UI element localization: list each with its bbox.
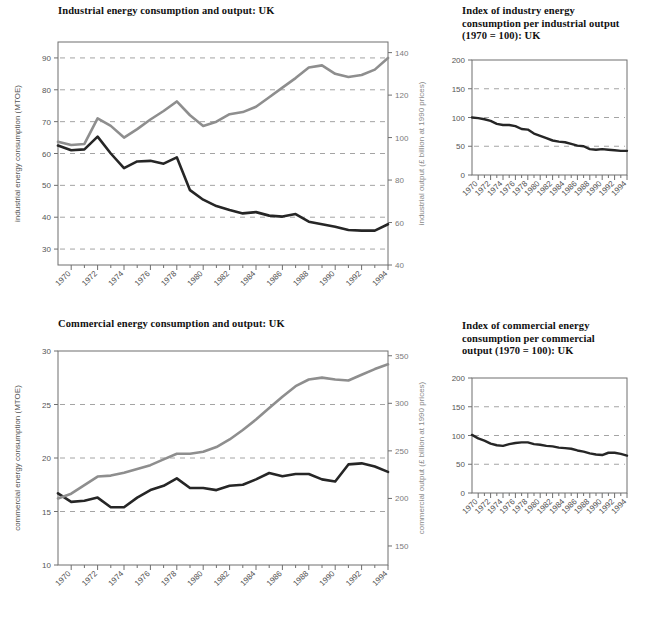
xtick-label: 1984 [238, 569, 257, 588]
xtick-label: 1974 [106, 569, 125, 588]
xtick-label: 1972 [80, 569, 99, 588]
ytick-label: 30 [42, 347, 51, 356]
xtick-label: 1978 [159, 569, 178, 588]
chart-panel-commercial-energy: Commercial energy consumption and output… [0, 310, 440, 620]
ytick-label: 30 [42, 245, 51, 254]
xtick-label: 1972 [80, 269, 99, 288]
xtick-label: 1980 [186, 269, 205, 288]
xtick-label: 1986 [265, 569, 284, 588]
xtick-label: 1980 [186, 569, 205, 588]
ytick-label: 40 [42, 213, 51, 222]
chart-commercial-energy: 1015202530150200250300350197019721974197… [0, 332, 440, 620]
ytick-label: 10 [42, 561, 51, 570]
ytick-label: 25 [42, 401, 51, 410]
y2tick-label: 150 [395, 542, 409, 551]
y2-axis-title: commercial output (£ billion at 1990 pri… [417, 381, 426, 534]
ytick-label: 50 [456, 460, 465, 469]
xtick-label: 1984 [238, 269, 257, 288]
xtick-label: 1988 [291, 269, 310, 288]
chart-index-commercial: 0501001502001970197219741976197819801982… [440, 366, 656, 526]
y2tick-label: 300 [395, 399, 409, 408]
ytick-label: 150 [452, 403, 466, 412]
ytick-label: 90 [42, 54, 51, 63]
ytick-label: 200 [452, 56, 466, 65]
xtick-label: 1992 [344, 569, 363, 588]
xtick-label: 1994 [370, 269, 389, 288]
xtick-label: 1976 [133, 269, 152, 288]
y2tick-label: 60 [395, 219, 404, 228]
y2tick-label: 80 [395, 176, 404, 185]
ytick-label: 100 [452, 432, 466, 441]
series-line-consumption [472, 435, 627, 456]
ytick-label: 0 [461, 171, 466, 180]
y2tick-label: 350 [395, 352, 409, 361]
xtick-label: 1994 [370, 569, 389, 588]
xtick-label: 1988 [291, 569, 310, 588]
ytick-label: 100 [452, 114, 466, 123]
chart-panel-index-commercial: Index of commercial energy consumption p… [440, 310, 656, 550]
chart-industrial-energy: 3040506070809040608010012014019701972197… [0, 20, 440, 310]
chart-panel-index-industry: Index of industry energy consumption per… [440, 0, 656, 230]
xtick-label: 1992 [344, 269, 363, 288]
xtick-label: 1970 [54, 569, 73, 588]
y2tick-label: 250 [395, 447, 409, 456]
y-axis-title: industrial energy consumption (MTOE) [13, 85, 22, 222]
ytick-label: 0 [461, 489, 466, 498]
y2tick-label: 100 [395, 134, 409, 143]
xtick-label: 1978 [159, 269, 178, 288]
series-line-consumption [58, 463, 388, 507]
y-axis-title: commercial energy consumption (MTOE) [13, 385, 22, 531]
xtick-label: 1982 [212, 269, 231, 288]
ytick-label: 70 [42, 118, 51, 127]
ytick-label: 20 [42, 454, 51, 463]
xtick-label: 1990 [318, 569, 337, 588]
ytick-label: 200 [452, 374, 466, 383]
chart-panel-industrial-energy: Industrial energy consumption and output… [0, 0, 440, 310]
xtick-label: 1976 [133, 569, 152, 588]
ytick-label: 50 [456, 142, 465, 151]
y2tick-label: 200 [395, 494, 409, 503]
xtick-label: 1974 [106, 269, 125, 288]
chart-index-industry: 0501001502001970197219741976197819801982… [440, 48, 656, 208]
ytick-label: 60 [42, 150, 51, 159]
y2-axis-title: industrial output (£ billion at 1990 pri… [417, 81, 426, 225]
y2tick-label: 140 [395, 49, 409, 58]
xtick-label: 1994 [609, 497, 628, 516]
page-title-industrial-energy: Industrial energy consumption and output… [58, 5, 274, 18]
series-line-output [58, 58, 388, 145]
ytick-label: 150 [452, 85, 466, 94]
ytick-label: 50 [42, 181, 51, 190]
xtick-label: 1970 [54, 269, 73, 288]
page-title-commercial-energy: Commercial energy consumption and output… [58, 318, 285, 331]
xtick-label: 1986 [265, 269, 284, 288]
xtick-label: 1990 [318, 269, 337, 288]
xtick-label: 1994 [609, 179, 628, 198]
ytick-label: 80 [42, 86, 51, 95]
series-line-consumption [58, 137, 388, 231]
y2tick-label: 40 [395, 261, 404, 270]
y2tick-label: 120 [395, 91, 409, 100]
page-title-index-commercial: Index of commercial energy consumption p… [462, 320, 652, 358]
page-title-index-industry: Index of industry energy consumption per… [462, 5, 652, 43]
ytick-label: 15 [42, 508, 51, 517]
xtick-label: 1982 [212, 569, 231, 588]
